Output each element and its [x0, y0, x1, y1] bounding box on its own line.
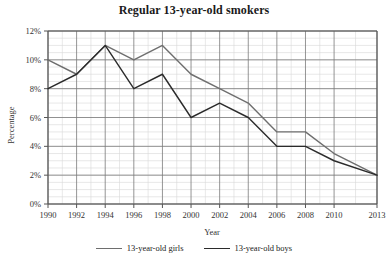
- x-tick-label: 2008: [297, 210, 314, 220]
- x-tick-label: 2010: [326, 210, 343, 220]
- y-tick-label: 2%: [30, 170, 41, 180]
- y-tick-label: 12%: [25, 26, 41, 36]
- legend-line-swatch-boys: [204, 248, 230, 249]
- x-tick-label: 2013: [369, 210, 386, 220]
- x-tick-label: 2006: [268, 210, 285, 220]
- x-tick-label: 2000: [183, 210, 200, 220]
- chart-container: Regular 13-year-old smokers 0%2%4%6%8%10…: [0, 0, 388, 267]
- y-tick-label: 4%: [30, 141, 41, 151]
- chart-svg: 0%2%4%6%8%10%12% 19901992199419961998200…: [0, 0, 388, 267]
- legend-line-swatch-girls: [96, 248, 122, 249]
- y-axis-tick-labels: 0%2%4%6%8%10%12%: [25, 26, 41, 209]
- x-axis-title: Year: [204, 227, 220, 237]
- x-tick-label: 2002: [211, 210, 228, 220]
- legend-item-girls: 13-year-old girls: [96, 243, 184, 253]
- x-tick-label: 1998: [154, 210, 171, 220]
- y-tick-label: 8%: [30, 84, 41, 94]
- y-tick-label: 10%: [25, 55, 41, 65]
- legend-item-boys: 13-year-old boys: [204, 243, 293, 253]
- y-axis-title: Percentage: [6, 106, 16, 144]
- legend-label-boys: 13-year-old boys: [235, 243, 293, 253]
- x-tick-label: 1990: [40, 210, 57, 220]
- x-tick-label: 1996: [125, 210, 142, 220]
- x-tick-label: 2004: [240, 210, 258, 220]
- x-tick-label: 1992: [68, 210, 85, 220]
- chart-legend: 13-year-old girls 13-year-old boys: [0, 243, 388, 253]
- y-tick-label: 6%: [30, 113, 41, 123]
- plot-area: 0%2%4%6%8%10%12% 19901992199419961998200…: [0, 0, 388, 267]
- y-tick-label: 0%: [30, 199, 41, 209]
- x-tick-label: 1994: [97, 210, 115, 220]
- legend-label-girls: 13-year-old girls: [127, 243, 184, 253]
- x-axis-tick-labels: 1990199219941996199820002002200420062008…: [40, 210, 386, 220]
- major-gridlines: [48, 31, 377, 204]
